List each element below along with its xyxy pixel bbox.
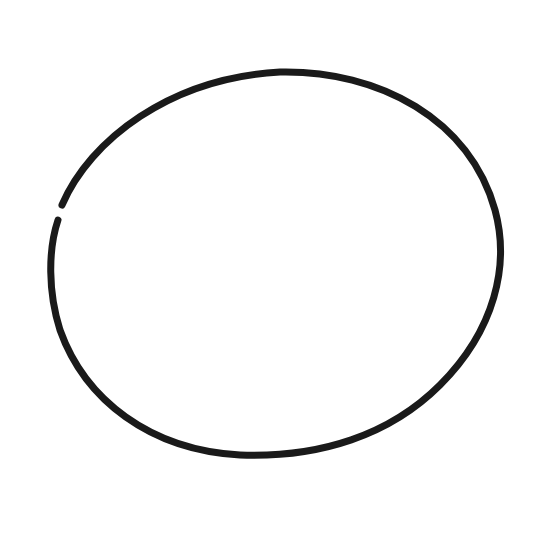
hand-drawn-oval xyxy=(51,72,501,455)
drawing-canvas xyxy=(0,0,558,554)
